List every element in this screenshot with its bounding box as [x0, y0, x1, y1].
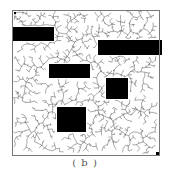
- obstacle-4: [106, 78, 128, 99]
- obstacle-1: [12, 27, 54, 41]
- obstacle-2: [98, 40, 162, 55]
- rrt-diagram: [0, 0, 170, 179]
- obstacle-3: [49, 64, 90, 78]
- start-marker: [14, 12, 16, 14]
- figure-caption: ( b ): [0, 157, 170, 168]
- background: [0, 0, 170, 179]
- goal-marker: [156, 152, 159, 155]
- obstacle-5: [57, 107, 86, 132]
